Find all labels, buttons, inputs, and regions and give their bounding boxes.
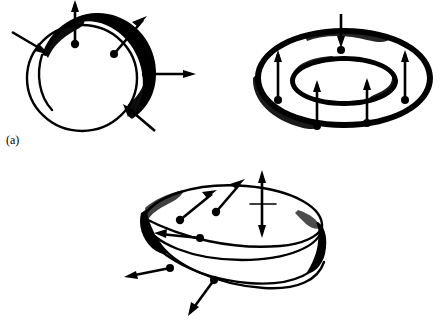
panel-a-sphere-normals: (a) [0, 0, 215, 160]
vector-upper-left-inward [12, 32, 50, 55]
panel-b-drawing [245, 12, 443, 160]
vector-top-double-headed [250, 170, 276, 238]
panel-b-annulus-normals: (b) [245, 12, 443, 160]
panel-a-drawing [0, 0, 215, 160]
vector-outer-right-up [401, 50, 409, 104]
front-circle-outline [27, 25, 137, 131]
inner-ring-shading-upper-left [292, 56, 333, 78]
panel-c-drawing [112, 168, 352, 327]
vector-outer-left-up [274, 50, 282, 104]
band-interior-twist-curve [144, 218, 322, 247]
inner-ring-shading-right [368, 77, 395, 103]
panel-a-label: (a) [6, 134, 19, 146]
rear-circle-thin-arc [39, 55, 52, 110]
vector-upper-left-up-right [176, 190, 217, 224]
figure-page: (a) [0, 0, 443, 327]
vector-lower-left-left [124, 264, 174, 279]
panel-c-moebius-normals: (c) [112, 168, 352, 327]
band-left-edge-smudge [145, 190, 184, 220]
vector-bottom-down-left [188, 276, 218, 316]
